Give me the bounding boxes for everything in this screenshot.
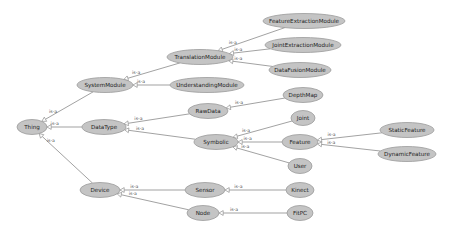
edge-label: is-a xyxy=(328,132,336,137)
edge-joint-to-symbolic: is-a xyxy=(233,121,292,138)
edge-label: is-a xyxy=(244,136,252,141)
edge-label: is-a xyxy=(234,56,242,61)
edge-label: is-a xyxy=(47,138,55,143)
node-label: Kinect xyxy=(291,187,309,193)
edge-joint-extraction-module-to-translation-module: is-a xyxy=(229,47,270,56)
node-label: SystemModule xyxy=(84,82,126,89)
node-label: Symbolic xyxy=(203,139,228,146)
node-label: FitPC xyxy=(293,210,307,216)
edge-understanding-module-to-system-module: is-a xyxy=(133,79,170,87)
node-label: DynamicFeature xyxy=(384,151,430,158)
class-node-fit-pc[interactable]: FitPC xyxy=(287,206,313,221)
node-label: UnderstandingModule xyxy=(176,82,238,89)
edge-line xyxy=(129,130,196,139)
class-node-feature-extraction-module[interactable]: FeatureExtractionModule xyxy=(263,14,345,29)
class-node-raw-data[interactable]: RawData xyxy=(188,104,228,119)
class-node-feature[interactable]: Feature xyxy=(282,135,318,150)
node-label: Sensor xyxy=(195,187,215,193)
class-node-data-type[interactable]: DataType xyxy=(82,120,126,135)
edge-label: is-a xyxy=(234,47,242,52)
class-node-sensor[interactable]: Sensor xyxy=(185,183,225,198)
ontology-diagram: is-ais-ais-ais-ais-ais-ais-ais-ais-ais-a… xyxy=(0,0,450,236)
class-node-kinect[interactable]: Kinect xyxy=(286,183,314,198)
node-label: FeatureExtractionModule xyxy=(269,18,340,24)
node-label: Thing xyxy=(23,124,40,131)
edge-node-to-device: is-a xyxy=(117,191,188,209)
edge-raw-data-to-data-type: is-a xyxy=(124,114,189,126)
node-label: Feature xyxy=(289,139,311,145)
class-node-understanding-module[interactable]: UnderstandingModule xyxy=(170,78,244,93)
edge-line xyxy=(45,92,93,119)
edge-user-to-symbolic: is-a xyxy=(233,144,289,163)
edge-kinect-to-sensor: is-a xyxy=(225,184,286,192)
edge-label: is-a xyxy=(229,40,237,45)
node-label: User xyxy=(294,163,307,169)
class-node-thing[interactable]: Thing xyxy=(17,120,47,135)
class-node-dynamic-feature[interactable]: DynamicFeature xyxy=(378,147,436,162)
edge-feature-to-symbolic: is-a xyxy=(238,136,282,144)
node-label: StaticFeature xyxy=(388,127,426,133)
node-label: DataFusionModule xyxy=(274,67,326,73)
node-label: Joint xyxy=(296,115,310,122)
edge-device-to-thing: is-a xyxy=(39,134,92,183)
edge-label: is-a xyxy=(234,184,242,189)
edge-label: is-a xyxy=(137,79,145,84)
class-node-data-fusion-module[interactable]: DataFusionModule xyxy=(269,63,331,78)
edge-symbolic-to-data-type: is-a xyxy=(124,126,195,139)
node-label: RawData xyxy=(195,108,220,114)
hollow-arrowhead-icon xyxy=(225,188,229,193)
edge-label: is-a xyxy=(51,121,59,126)
class-node-user[interactable]: User xyxy=(288,159,312,174)
edge-system-module-to-thing: is-a xyxy=(42,92,93,122)
edge-label: is-a xyxy=(49,109,57,114)
edge-label: is-a xyxy=(241,144,249,149)
edge-label: is-a xyxy=(235,100,243,105)
edge-data-fusion-module-to-translation-module: is-a xyxy=(229,56,273,66)
edge-line xyxy=(233,61,273,66)
node-label: DataType xyxy=(91,124,118,131)
edge-label: is-a xyxy=(132,70,140,75)
node-label: Node xyxy=(196,210,211,216)
node-label: DepthMap xyxy=(289,92,318,99)
class-node-static-feature[interactable]: StaticFeature xyxy=(380,123,434,138)
node-label: TranslationModule xyxy=(174,54,226,60)
edge-fit-pc-to-node: is-a xyxy=(219,207,287,215)
edge-data-type-to-thing: is-a xyxy=(47,121,82,129)
edge-line xyxy=(237,148,289,163)
class-node-depth-map[interactable]: DepthMap xyxy=(283,88,323,103)
edge-line xyxy=(121,195,188,210)
edge-label: is-a xyxy=(327,140,335,145)
node-label: JointExtractionModule xyxy=(271,42,334,49)
class-node-device[interactable]: Device xyxy=(80,183,120,198)
class-node-joint-extraction-module[interactable]: JointExtractionModule xyxy=(265,38,341,53)
edge-label: is-a xyxy=(230,207,238,212)
edge-translation-module-to-system-module: is-a xyxy=(124,63,180,81)
node-label: Device xyxy=(90,187,110,193)
class-node-joint[interactable]: Joint xyxy=(291,111,315,126)
hollow-arrowhead-icon xyxy=(120,188,124,193)
edge-label: is-a xyxy=(242,128,250,133)
hollow-arrowhead-icon xyxy=(219,211,223,216)
edge-dynamic-feature-to-feature: is-a xyxy=(317,140,380,152)
edge-line xyxy=(322,144,381,151)
edge-label: is-a xyxy=(130,184,138,189)
class-node-system-module[interactable]: SystemModule xyxy=(77,78,133,93)
edge-label: is-a xyxy=(136,126,144,131)
class-node-node[interactable]: Node xyxy=(187,206,219,221)
edge-label: is-a xyxy=(134,116,142,121)
class-node-translation-module[interactable]: TranslationModule xyxy=(167,50,233,65)
edge-depth-map-to-raw-data: is-a xyxy=(226,98,285,110)
class-node-symbolic[interactable]: Symbolic xyxy=(194,135,238,150)
edge-label: is-a xyxy=(129,191,137,196)
